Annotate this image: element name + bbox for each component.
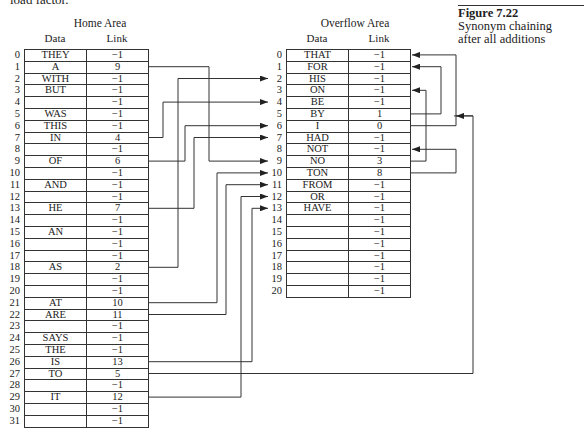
chain-arrows xyxy=(0,0,584,432)
